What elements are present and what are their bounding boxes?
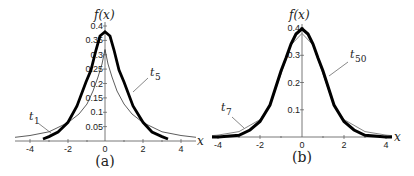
svg-text:5: 5: [155, 72, 161, 82]
annotation-t50: t 50: [329, 48, 367, 76]
y-tick-label: 0.1: [287, 105, 300, 115]
panel-caption-b: (b): [292, 149, 312, 165]
x-tick-label: 2: [341, 140, 346, 150]
series-t5-curve: [43, 32, 168, 139]
y-axis-label: f(x): [93, 8, 115, 22]
panel-caption-a: (a): [95, 153, 114, 169]
x-tick-label: 4: [178, 144, 183, 154]
x-tick-label: -2: [64, 144, 72, 154]
arrow-icon: [232, 117, 244, 128]
x-tick-label: -2: [256, 140, 264, 150]
x-axis-label: x: [197, 134, 204, 148]
x-tick-label: -4: [26, 144, 34, 154]
arrow-icon: [38, 123, 51, 133]
arrow-icon: [133, 78, 148, 92]
x-tick-label: 2: [140, 144, 145, 154]
svg-text:1: 1: [34, 116, 40, 126]
arrow-icon: [329, 62, 348, 76]
y-tick-label: 0.05: [85, 122, 103, 132]
panel-a: -4 -2 0 2 4 0.05 0.1 0.15 0.2 0.25 0.3 0…: [15, 8, 204, 169]
x-tick-label: 4: [383, 140, 388, 150]
y-tick-label: 0.1: [90, 107, 103, 117]
y-axis-label: f(x): [288, 8, 310, 22]
y-tick-label: 0.2: [287, 78, 300, 88]
annotation-t7: t 7: [221, 101, 244, 128]
panel-b: -4 -2 0 2 4 0.1 0.2 0.3 0.4 f(x) x t 7 t…: [212, 8, 401, 165]
annotation-t1: t 1: [29, 110, 51, 133]
figure: -4 -2 0 2 4 0.05 0.1 0.15 0.2 0.25 0.3 0…: [0, 0, 414, 176]
svg-text:7: 7: [226, 107, 232, 117]
x-axis-label: x: [394, 130, 401, 144]
y-tick-label: 0.4: [90, 21, 103, 31]
x-tick-label: -4: [214, 140, 222, 150]
svg-text:50: 50: [355, 54, 367, 64]
series-t1-curve: [15, 50, 196, 138]
annotation-t5: t 5: [133, 66, 161, 92]
